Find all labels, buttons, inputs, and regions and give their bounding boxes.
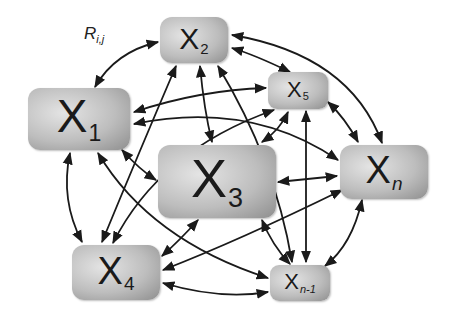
node-x4: X4	[72, 245, 160, 300]
edge-xn-xn1	[325, 200, 362, 266]
node-x1: X1	[28, 88, 130, 150]
node-x3: X3	[158, 145, 276, 218]
edge-x2-x3	[200, 66, 212, 142]
edge-x3-xn	[278, 176, 337, 182]
node-label: X	[179, 22, 199, 55]
edge-label-rij: Ri,j	[84, 24, 104, 45]
node-xn: Xn	[340, 145, 428, 199]
node-subscript: 3	[228, 183, 243, 213]
edge-x1-x5	[134, 88, 266, 112]
node-subscript: 1	[88, 120, 101, 146]
node-xn-1: Xn-1	[270, 265, 330, 301]
edge-x4-xn1	[163, 283, 268, 295]
edge-x5-xn	[328, 102, 358, 142]
node-subscript: 5	[303, 90, 309, 102]
edge-x1-x2	[95, 42, 158, 87]
node-subscript: n-1	[300, 283, 316, 295]
node-label: X	[57, 90, 88, 142]
node-subscript: 4	[124, 273, 135, 294]
node-label: X	[287, 77, 302, 102]
node-label: X	[366, 149, 391, 191]
node-x5: X5	[268, 72, 328, 109]
node-label: X	[98, 250, 123, 292]
node-subscript: n	[392, 173, 403, 194]
node-label: X	[191, 148, 227, 208]
node-subscript: 2	[200, 40, 208, 57]
edge-x1-x4	[67, 153, 82, 242]
edge-label-sub: i,j	[96, 33, 104, 45]
node-label: X	[284, 269, 299, 294]
edge-x2-x5	[232, 48, 290, 72]
edge-label-main: R	[84, 24, 96, 43]
edge-x3-x4	[162, 220, 198, 256]
node-x2: X2	[160, 17, 228, 63]
